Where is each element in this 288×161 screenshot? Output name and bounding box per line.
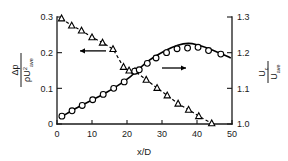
y-tick-label-left: 0 bbox=[48, 119, 53, 129]
data-marker-circle bbox=[69, 108, 75, 114]
data-marker-circle bbox=[90, 97, 96, 103]
data-marker-circle bbox=[59, 113, 65, 119]
y-tick-label-right: 1.3 bbox=[237, 12, 250, 22]
y-tick-label-left: 0.3 bbox=[40, 12, 53, 22]
data-marker-circle bbox=[164, 50, 170, 56]
y-tick-label-right: 1.1 bbox=[237, 84, 250, 94]
y-axis-left-numerator: Δp bbox=[10, 64, 20, 75]
subscript: ave bbox=[275, 64, 281, 73]
y-tick-label-left: 0.2 bbox=[40, 48, 53, 58]
data-marker-circle bbox=[174, 46, 180, 52]
data-marker-circle bbox=[144, 60, 150, 66]
chart-canvas: 0102030405000.10.20.31.01.11.21.3 x/D Δp… bbox=[0, 0, 288, 161]
data-marker-circle bbox=[153, 55, 159, 61]
x-tick-label: 20 bbox=[122, 129, 132, 139]
data-marker-circle bbox=[79, 103, 85, 109]
y-tick-label-right: 1.2 bbox=[237, 48, 250, 58]
data-marker-circle bbox=[206, 48, 212, 54]
data-marker-circle bbox=[136, 67, 142, 73]
data-marker-circle bbox=[111, 85, 117, 91]
x-tick-label: 40 bbox=[192, 129, 202, 139]
y-tick-label-left: 0.1 bbox=[40, 84, 53, 94]
x-axis-title: x/D bbox=[137, 146, 151, 157]
subscript: ave bbox=[28, 58, 34, 67]
figure-container: 0102030405000.10.20.31.01.11.21.3 x/D Δp… bbox=[0, 0, 288, 161]
x-tick-label: 50 bbox=[227, 129, 237, 139]
x-tick-label: 10 bbox=[87, 129, 97, 139]
x-tick-label: 30 bbox=[157, 129, 167, 139]
data-marker-circle bbox=[195, 44, 201, 50]
y-tick-label-right: 1.0 bbox=[237, 119, 250, 129]
data-marker-circle bbox=[185, 45, 191, 51]
data-marker-circle bbox=[100, 92, 106, 98]
data-marker-circle bbox=[218, 51, 224, 57]
data-marker-circle bbox=[121, 79, 127, 85]
x-tick-label: 0 bbox=[54, 129, 59, 139]
